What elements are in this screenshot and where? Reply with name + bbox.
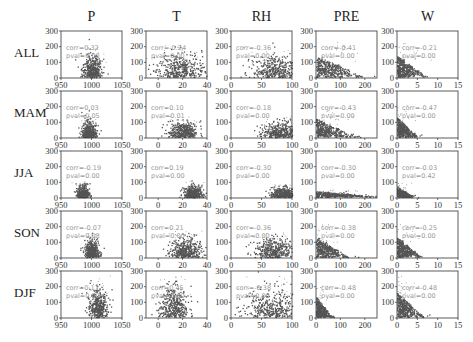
pval-value: pval=0.00 xyxy=(236,113,271,121)
y-tick-label: 200 xyxy=(291,42,313,51)
scatter-panel-mam-rh: 0100200300050100corr=-0.18pval=0.00 xyxy=(231,91,292,138)
pval-value: pval=0.00 xyxy=(151,233,185,241)
y-tick-label: 100 xyxy=(291,298,313,307)
y-tick-label: 100 xyxy=(372,238,394,247)
y-tick-label: 300 xyxy=(206,87,228,96)
y-tick-label: 300 xyxy=(36,27,58,36)
y-tick-label: 200 xyxy=(36,282,58,291)
pval-value: pval=0.00 xyxy=(321,173,356,181)
pval-value: pval=0.00 xyxy=(236,233,271,241)
y-tick-label: 300 xyxy=(206,147,228,156)
y-tick-label: 100 xyxy=(121,118,143,127)
scatter-panel-son-t: 010020030002040corr=0.21pval=0.00 xyxy=(146,211,207,258)
pval-value: pval=0.00 xyxy=(66,293,100,301)
y-tick-label: 100 xyxy=(206,178,228,187)
pval-value: pval=0.00 xyxy=(151,53,186,61)
y-tick-label: 300 xyxy=(121,147,143,156)
y-tick-label: 0 xyxy=(121,254,143,263)
y-tick-label: 100 xyxy=(206,58,228,67)
y-tick-label: 100 xyxy=(36,58,58,67)
correlation-stats: corr=-0.30pval=0.00 xyxy=(236,165,271,180)
scatter-panel-son-p: 010020030095010001050corr=-0.07pval=0.08 xyxy=(61,211,122,258)
y-tick-label: 200 xyxy=(206,222,228,231)
scatter-panel-djf-rh: 0100200300050100corr=-0.38pval=0.00 xyxy=(231,271,292,318)
y-tick-label: 100 xyxy=(372,118,394,127)
y-tick-label: 200 xyxy=(121,162,143,171)
y-tick-label: 200 xyxy=(291,162,313,171)
y-tick-label: 100 xyxy=(291,178,313,187)
scatter-panel-son-pre: 01002003000100200corr=-0.38pval=0.00 xyxy=(316,211,377,258)
correlation-stats: corr=0.03pval=0.05 xyxy=(66,105,100,120)
y-tick-label: 0 xyxy=(121,134,143,143)
correlation-stats: corr=0.19pval=0.00 xyxy=(151,165,185,180)
y-tick-label: 300 xyxy=(291,87,313,96)
pval-value: pval=0.00 xyxy=(236,53,271,61)
y-tick-label: 300 xyxy=(291,27,313,36)
scatter-panel-jja-t: 010020030002040corr=0.19pval=0.00 xyxy=(146,151,207,198)
y-tick-label: 200 xyxy=(36,42,58,51)
scatter-panel-jja-w: 0100200300051015corr=-0.03pval=0.42 xyxy=(397,151,458,198)
correlation-stats: corr=-0.48pval=0.00 xyxy=(402,285,437,300)
pval-value: pval=0.00 xyxy=(236,173,271,181)
correlation-stats: corr=-0.21pval=0.00 xyxy=(402,45,437,60)
y-tick-label: 100 xyxy=(121,58,143,67)
correlation-stats: corr=0.45pval=0.00 xyxy=(151,285,185,300)
y-tick-label: 300 xyxy=(291,147,313,156)
y-tick-label: 200 xyxy=(121,222,143,231)
y-tick-label: 200 xyxy=(291,102,313,111)
pval-value: pval=0.00 xyxy=(151,293,185,301)
scatter-panel-djf-p: 010020030095010001050corr=0.17pval=0.00 xyxy=(61,271,122,318)
x-tick-label: 50 xyxy=(247,81,277,90)
y-tick-label: 200 xyxy=(121,42,143,51)
y-tick-label: 100 xyxy=(372,178,394,187)
correlation-stats: corr=-0.24pval=0.00 xyxy=(151,45,186,60)
scatter-panel-mam-t: 010020030002040corr=0.10pval=0.01 xyxy=(146,91,207,138)
pval-value: pval=0.42 xyxy=(402,173,437,181)
y-tick-label: 200 xyxy=(121,282,143,291)
scatter-panel-all-w: 0100200300051015corr=-0.21pval=0.00 xyxy=(397,31,458,78)
column-title-p: P xyxy=(61,9,122,25)
y-tick-label: 300 xyxy=(291,207,313,216)
y-tick-label: 300 xyxy=(206,27,228,36)
correlation-stats: corr=-0.43pval=0.00 xyxy=(321,105,356,120)
y-tick-label: 200 xyxy=(372,222,394,231)
correlation-stats: corr=0.21pval=0.00 xyxy=(151,225,185,240)
correlation-stats: corr=0.32pval=0.00 xyxy=(66,45,100,60)
scatter-panel-all-p: 010020030095010001050corr=0.32pval=0.00 xyxy=(61,31,122,78)
y-tick-label: 300 xyxy=(372,267,394,276)
correlation-stats: corr=-0.36pval=0.00 xyxy=(236,45,271,60)
pval-value: pval=0.00 xyxy=(402,53,437,61)
scatter-panel-all-pre: 01002003000100200corr=-0.41pval=0.00 xyxy=(316,31,377,78)
correlation-stats: corr=-0.38pval=0.00 xyxy=(236,285,271,300)
column-title-t: T xyxy=(146,9,207,25)
y-tick-label: 100 xyxy=(206,298,228,307)
column-title-pre: PRE xyxy=(316,9,377,25)
pval-value: pval=0.00 xyxy=(236,293,271,301)
scatter-panel-mam-w: 0100200300051015corr=-0.47pval=0.00 xyxy=(397,91,458,138)
pval-value: pval=0.05 xyxy=(66,113,100,121)
pval-value: pval=0.00 xyxy=(151,173,185,181)
scatter-panel-all-t: 010020030002040corr=-0.24pval=0.00 xyxy=(146,31,207,78)
scatter-panel-mam-p: 010020030095010001050corr=0.03pval=0.05 xyxy=(61,91,122,138)
y-tick-label: 200 xyxy=(36,162,58,171)
scatter-panel-djf-t: 010020030002040corr=0.45pval=0.00 xyxy=(146,271,207,318)
y-tick-label: 0 xyxy=(121,74,143,83)
x-tick-label: 15 xyxy=(443,81,473,90)
x-tick-label: 1000 xyxy=(77,261,107,270)
correlation-stats: corr=-0.47pval=0.00 xyxy=(402,105,437,120)
scatter-panel-all-rh: 0100200300050100corr=-0.36pval=0.00 xyxy=(231,31,292,78)
scatter-panel-jja-pre: 01002003000100200corr=-0.30pval=0.00 xyxy=(316,151,377,198)
y-tick-label: 300 xyxy=(206,207,228,216)
x-tick-label: 50 xyxy=(247,141,277,150)
y-tick-label: 300 xyxy=(291,267,313,276)
y-tick-label: 200 xyxy=(121,102,143,111)
pval-value: pval=0.00 xyxy=(402,113,437,121)
scatter-panel-mam-pre: 01002003000100200corr=-0.43pval=0.00 xyxy=(316,91,377,138)
pval-value: pval=0.00 xyxy=(66,173,101,181)
correlation-stats: corr=-0.25pval=0.00 xyxy=(402,225,437,240)
x-tick-label: 15 xyxy=(443,201,473,210)
correlation-stats: corr=-0.36pval=0.00 xyxy=(236,225,271,240)
y-tick-label: 200 xyxy=(206,102,228,111)
pval-value: pval=0.00 xyxy=(321,113,356,121)
x-tick-label: 1000 xyxy=(77,141,107,150)
